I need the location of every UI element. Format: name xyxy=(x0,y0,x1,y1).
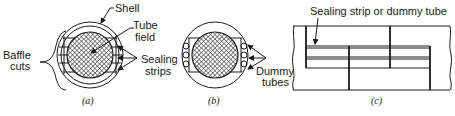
baffle-cut-brace-bottom xyxy=(40,62,66,90)
break-line-left xyxy=(293,26,295,90)
heat-exchanger-sealing-diagram: Shell Tube field Sealing strips Baffle c… xyxy=(0,0,455,116)
caption-a: (a) xyxy=(82,95,94,107)
break-line-right xyxy=(450,26,452,90)
caption-b: (b) xyxy=(208,95,220,107)
label-tube-field-2: field xyxy=(135,31,155,43)
label-baffle-cuts-2: cuts xyxy=(10,60,31,72)
sealing-strip-pointer-c xyxy=(315,18,318,44)
sealing-strip-pointer-3 xyxy=(118,58,137,70)
label-sealing-strips-1: Sealing xyxy=(141,53,178,65)
tube-field-b xyxy=(192,32,238,78)
label-dummy-tubes-2: tubes xyxy=(262,76,289,88)
label-sealing-strip-or-dummy-tube: Sealing strip or dummy tube xyxy=(310,5,447,17)
shell-pointer xyxy=(101,8,110,23)
label-shell: Shell xyxy=(115,2,139,14)
sealing-strip-pointer-1 xyxy=(118,46,137,58)
caption-c: (c) xyxy=(371,95,383,107)
panel-a: Shell Tube field Sealing strips Baffle c… xyxy=(3,2,178,107)
label-sealing-strips-2: strips xyxy=(145,65,172,77)
dummy-tube-pointer-1 xyxy=(248,45,266,58)
label-tube-field-1: Tube xyxy=(133,19,158,31)
panel-b: Dummy tubes (b) xyxy=(180,22,294,107)
panel-c: Sealing strip or dummy tube (c) xyxy=(293,5,452,107)
tube-field xyxy=(67,32,113,78)
